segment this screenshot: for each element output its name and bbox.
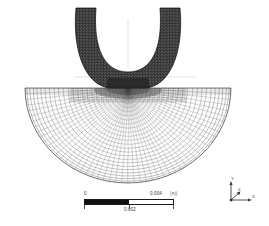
scale-tick-max <box>173 205 174 209</box>
axis-y-arrow <box>229 181 232 185</box>
axis-triad: Y Z X <box>222 176 258 210</box>
scale-tick-min <box>84 205 85 209</box>
scale-unit-label: (m) <box>170 191 177 196</box>
axis-z-label: Z <box>238 187 241 192</box>
axis-y-label: Y <box>231 176 234 181</box>
scale-bar: 0 0.004 (m) 0.002 <box>84 191 176 217</box>
scale-min-label: 0 <box>84 191 87 196</box>
scale-max-label: 0.004 <box>150 191 162 196</box>
axis-x-label: X <box>252 194 255 199</box>
scale-mid-label: 0.002 <box>113 207 147 212</box>
indenter-foot <box>106 78 150 88</box>
axis-origin-marker <box>230 199 232 201</box>
scale-bar-fill <box>85 200 129 204</box>
mesh-viewport: 0 0.004 (m) 0.002 Y Z X <box>0 0 269 226</box>
axis-triad-icon <box>222 176 258 210</box>
